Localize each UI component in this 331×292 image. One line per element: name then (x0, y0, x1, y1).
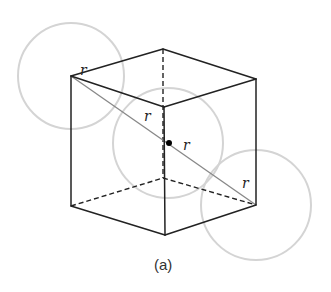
radius-label: r (144, 109, 151, 123)
cube-edge (163, 49, 256, 79)
figure-caption: (a) (154, 257, 172, 272)
cube-edge (165, 205, 256, 235)
hidden-edge (71, 178, 163, 206)
diagonal-line (71, 76, 256, 205)
cube-diagram (0, 0, 331, 292)
radius-label: r (80, 63, 87, 77)
cube-edge (164, 79, 256, 107)
space-diagonal (71, 76, 256, 205)
radius-label: r (183, 138, 190, 152)
center-point (166, 140, 172, 146)
radius-label: r (242, 176, 249, 190)
center-dot (166, 140, 172, 146)
cube-edge (164, 107, 165, 235)
cube-edge (71, 206, 165, 235)
